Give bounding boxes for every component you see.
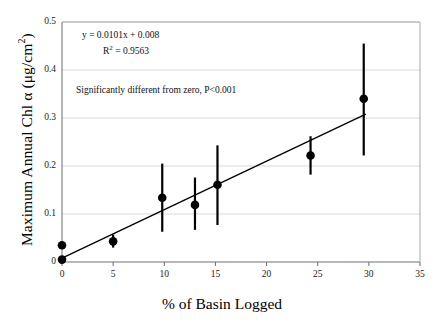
y-tick-label-0.3: 0.3 <box>22 112 56 122</box>
error-bars <box>62 44 364 262</box>
regression-equation-annotation: y = 0.0101x + 0.008 <box>82 30 159 40</box>
y-tick-label-0.2: 0.2 <box>22 160 56 170</box>
y-axis-label: Maximum Annual Chl α (μg/cm2) <box>16 20 35 260</box>
y-tick-label-0.5: 0.5 <box>22 16 56 26</box>
data-point-6 <box>306 151 315 160</box>
data-point-4 <box>191 201 200 210</box>
r-squared-value: = 0.9563 <box>113 46 149 56</box>
y-tick-label-0.1: 0.1 <box>22 208 56 218</box>
y-axis-label-tail: ) <box>18 33 35 38</box>
x-axis-tick-marks <box>62 262 420 266</box>
data-point-7 <box>359 95 368 104</box>
x-tick-label-35: 35 <box>405 269 435 279</box>
axis-lines <box>62 22 420 262</box>
x-tick-label-10: 10 <box>149 269 179 279</box>
y-tick-label-0: 0 <box>22 256 56 266</box>
data-point-2 <box>109 237 118 246</box>
x-tick-label-5: 5 <box>98 269 128 279</box>
x-tick-label-25: 25 <box>303 269 333 279</box>
x-tick-label-20: 20 <box>252 269 282 279</box>
x-axis-label: % of Basin Logged <box>0 295 444 313</box>
data-point-0 <box>58 241 67 250</box>
data-point-1 <box>58 255 67 264</box>
chart-figure: Maximum Annual Chl α (μg/cm2) % of Basin… <box>0 0 444 328</box>
y-axis-label-superscript: 2 <box>16 38 27 43</box>
data-point-3 <box>158 193 167 202</box>
x-tick-label-15: 15 <box>200 269 230 279</box>
significance-annotation: Significantly different from zero, P<0.0… <box>76 85 236 95</box>
x-tick-label-0: 0 <box>47 269 77 279</box>
r-squared-annotation: R2 = 0.9563 <box>103 44 149 56</box>
data-point-5 <box>213 180 222 189</box>
x-tick-label-30: 30 <box>354 269 384 279</box>
y-tick-label-0.4: 0.4 <box>22 64 56 74</box>
